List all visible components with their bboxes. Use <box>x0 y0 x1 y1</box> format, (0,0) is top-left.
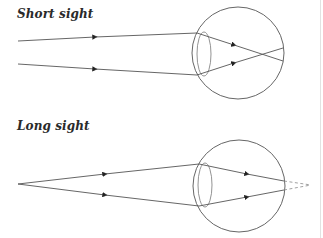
ray-diagram-svg <box>0 0 323 238</box>
ray-short-bottom <box>18 48 283 75</box>
ray-long-bottom <box>18 184 311 206</box>
lens-long <box>198 163 212 207</box>
virtual-ray-bottom <box>284 185 311 190</box>
eyeball-short <box>192 7 284 99</box>
virtual-ray-top <box>284 181 311 185</box>
ray-long-top <box>18 164 311 185</box>
long-sight-panel <box>18 140 311 232</box>
eye-defects-diagram: Short sight Long sight <box>0 0 323 238</box>
lens-short <box>197 32 211 76</box>
ray-short-top <box>18 33 283 61</box>
page-edge-divider <box>320 0 321 238</box>
short-sight-panel <box>18 7 284 99</box>
eyeball-long <box>193 140 285 232</box>
